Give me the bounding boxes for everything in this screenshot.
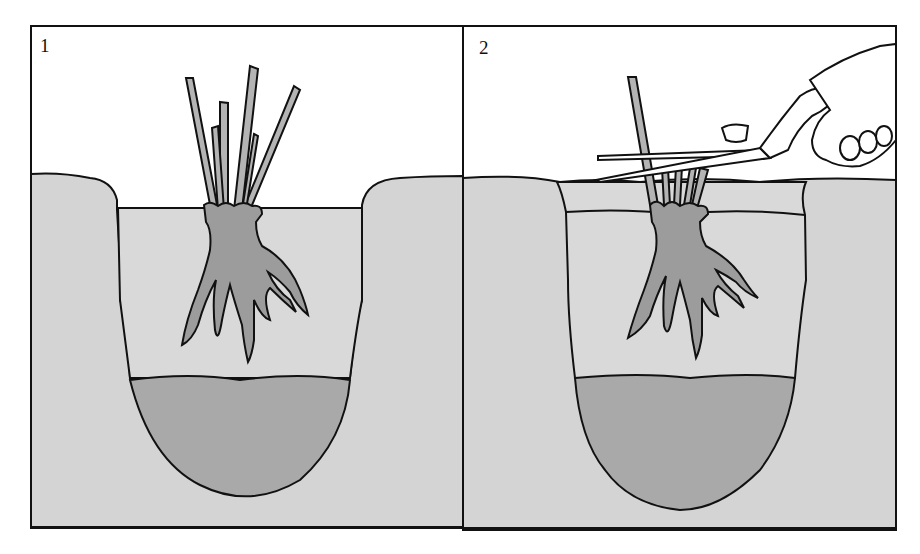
- panel-2: 2: [463, 28, 896, 530]
- planting-diagram: 1: [0, 0, 920, 554]
- panel-1: 1: [31, 26, 463, 527]
- panel-1-number: 1: [40, 35, 50, 56]
- panel-2-number: 2: [479, 37, 489, 58]
